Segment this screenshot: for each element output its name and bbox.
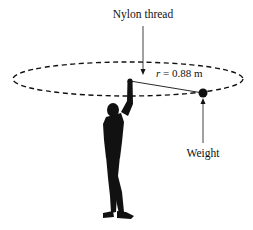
weight-ball (199, 89, 208, 98)
radius-label: r = 0.88 m (156, 67, 203, 79)
weight-arrowhead-icon (201, 98, 206, 104)
nylon-thread-line (130, 81, 203, 93)
thread-arrowhead-icon (141, 69, 146, 75)
person-silhouette-icon (103, 78, 134, 219)
circular-motion-diagram: Nylon thread r = 0.88 m Weight (0, 0, 253, 230)
weight-label: Weight (187, 147, 221, 160)
nylon-thread-label: Nylon thread (113, 8, 174, 21)
